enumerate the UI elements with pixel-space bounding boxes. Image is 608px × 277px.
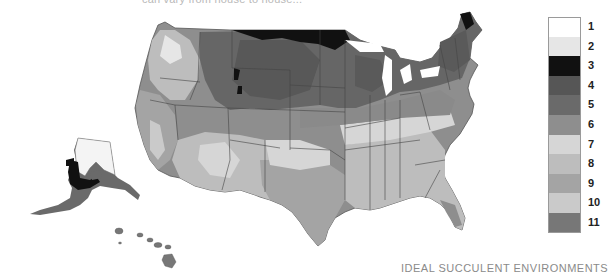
legend-swatch (548, 174, 581, 194)
legend-item-7: 7 (548, 135, 608, 155)
legend-swatch (548, 76, 581, 96)
legend-label: 2 (588, 40, 594, 52)
legend-label: 7 (588, 138, 594, 150)
legend-swatch (548, 17, 581, 37)
legend-swatch (548, 115, 581, 135)
legend-swatch (548, 135, 581, 155)
legend-item-2: 2 (548, 37, 608, 57)
legend-label: 4 (588, 79, 594, 91)
legend-label: 1 (588, 20, 594, 32)
legend-swatch (548, 95, 581, 115)
alaska-inset (30, 138, 140, 215)
legend-item-11: 11 (548, 213, 608, 233)
footer-title: IDEAL SUCCULENT ENVIRONMENTS (401, 262, 608, 274)
legend-item-3: 3 (548, 56, 608, 76)
legend-item-10: 10 (548, 193, 608, 213)
legend-label: 5 (588, 98, 594, 110)
legend-swatch (548, 37, 581, 57)
legend-label: 9 (588, 177, 594, 189)
legend-item-6: 6 (548, 115, 608, 135)
hawaii-inset (115, 228, 176, 268)
legend-swatch (548, 193, 581, 213)
legend-label: 10 (588, 196, 600, 208)
legend-swatch (548, 56, 581, 76)
legend-label: 8 (588, 157, 594, 169)
legend-label: 3 (588, 59, 594, 71)
zone-legend: 1 2 3 4 5 6 7 8 9 10 11 (548, 17, 608, 233)
legend-label: 11 (588, 216, 600, 228)
legend-item-8: 8 (548, 154, 608, 174)
legend-swatch (548, 213, 581, 233)
legend-item-9: 9 (548, 174, 608, 194)
us-zone-map (0, 0, 540, 277)
legend-item-5: 5 (548, 95, 608, 115)
legend-item-1: 1 (548, 17, 608, 37)
legend-swatch (548, 154, 581, 174)
legend-label: 6 (588, 118, 594, 130)
legend-item-4: 4 (548, 76, 608, 96)
